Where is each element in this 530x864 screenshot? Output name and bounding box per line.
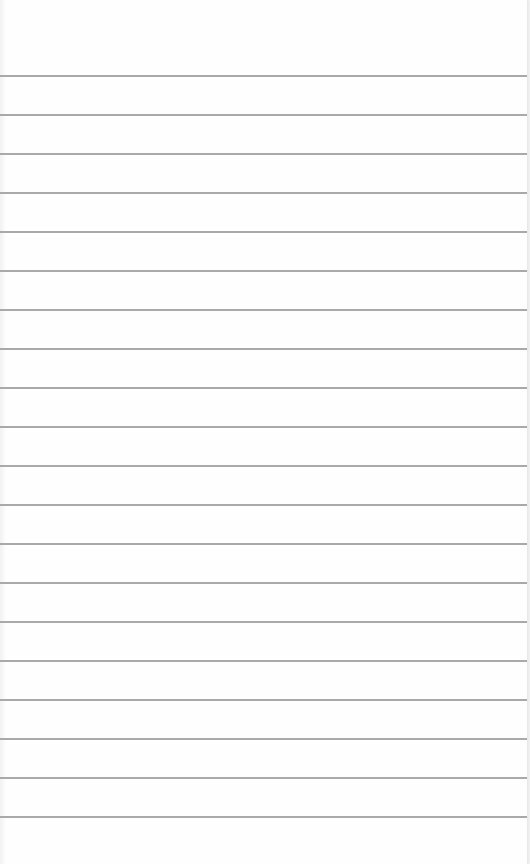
ruled-line [0,504,527,506]
ruled-line [0,75,527,77]
ruled-line [0,777,527,779]
ruled-line [0,621,527,623]
ruled-line [0,543,527,545]
ruled-line [0,192,527,194]
lined-paper-sheet [0,0,527,864]
paper-edge-shadow [0,0,6,864]
ruled-line [0,699,527,701]
ruled-line [0,348,527,350]
ruled-line [0,660,527,662]
ruled-line [0,270,527,272]
ruled-line [0,582,527,584]
ruled-line [0,465,527,467]
ruled-line [0,153,527,155]
ruled-line [0,738,527,740]
ruled-line [0,387,527,389]
ruled-line [0,816,527,818]
ruled-line [0,426,527,428]
ruled-line [0,114,527,116]
ruled-line [0,309,527,311]
ruled-line [0,231,527,233]
